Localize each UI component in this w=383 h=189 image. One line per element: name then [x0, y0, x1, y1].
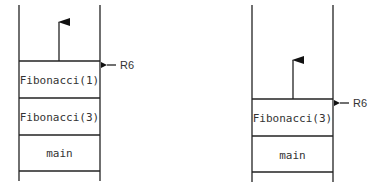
stack-diagram: Fibonacci(1) Fibonacci(3) main R6 Fibona… — [0, 0, 383, 189]
frame-label: Fibonacci(1) — [20, 74, 99, 87]
frame-label: Fibonacci(3) — [20, 111, 99, 124]
r6-label: R6 — [353, 97, 367, 109]
left-stack: Fibonacci(1) Fibonacci(3) main R6 — [19, 5, 134, 181]
r6-label: R6 — [120, 59, 134, 71]
frame-label: Fibonacci(3) — [253, 112, 332, 125]
right-stack: Fibonacci(3) main R6 — [252, 5, 367, 182]
frame-label: main — [279, 149, 306, 162]
frame-label: main — [46, 147, 73, 160]
